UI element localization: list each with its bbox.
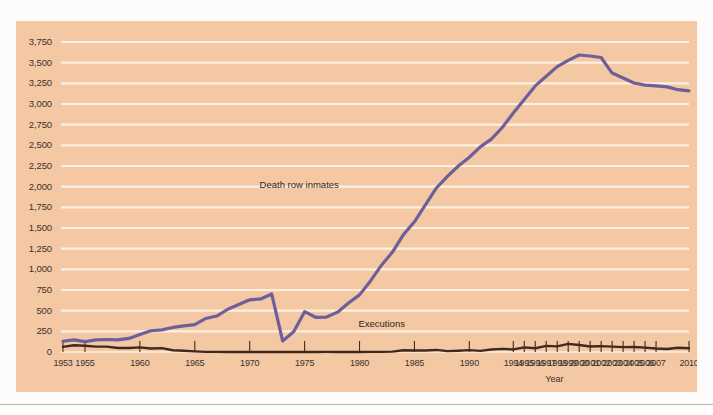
y-axis-tick-label: 0 [18, 346, 52, 357]
x-axis-tick-label: 1975 [295, 358, 314, 368]
x-axis-tick-label: 1955 [75, 358, 94, 368]
series-annotation-label: Executions [358, 318, 404, 329]
y-axis-tick-label: 1,750 [18, 201, 52, 212]
x-axis-tick-label: 1980 [350, 358, 369, 368]
y-axis-tick-label: 2,250 [18, 160, 52, 171]
x-axis-tick-label: 1953 [53, 358, 72, 368]
x-axis-tick-label: 2007 [646, 358, 665, 368]
x-axis-tick-label: 1970 [240, 358, 259, 368]
y-axis-tick-label: 750 [18, 284, 52, 295]
series-annotation-label: Death row inmates [260, 179, 339, 190]
chart-gridlines [61, 42, 689, 352]
series-line-executions [63, 344, 689, 352]
page-bottom-rule [0, 404, 713, 405]
y-axis-tick-label: 2,500 [18, 139, 52, 150]
y-axis-tick-label: 3,250 [18, 77, 52, 88]
chart-plot-panel: 02505007501,0001,2501,5001,7502,0002,250… [16, 21, 697, 392]
chart-x-axis-title: Year [545, 374, 563, 384]
x-axis-tick-label: 1985 [405, 358, 424, 368]
y-axis-tick-label: 2,750 [18, 119, 52, 130]
y-axis-tick-label: 500 [18, 305, 52, 316]
y-axis-tick-label: 250 [18, 325, 52, 336]
y-axis-tick-label: 2,000 [18, 181, 52, 192]
y-axis-tick-label: 3,000 [18, 98, 52, 109]
chart-svg [16, 21, 697, 392]
y-axis-tick-label: 3,750 [18, 36, 52, 47]
x-axis-tick-label: 1990 [460, 358, 479, 368]
y-axis-tick-label: 1,250 [18, 243, 52, 254]
x-axis-tick-label: 1960 [130, 358, 149, 368]
chart-figure: 02505007501,0001,2501,5001,7502,0002,250… [0, 0, 713, 415]
y-axis-tick-label: 3,500 [18, 57, 52, 68]
x-axis-tick-label: 2010 [679, 358, 697, 368]
y-axis-tick-label: 1,500 [18, 222, 52, 233]
series-line-death-row-inmates [63, 55, 689, 342]
x-axis-tick-label: 1965 [185, 358, 204, 368]
y-axis-tick-label: 1,000 [18, 263, 52, 274]
